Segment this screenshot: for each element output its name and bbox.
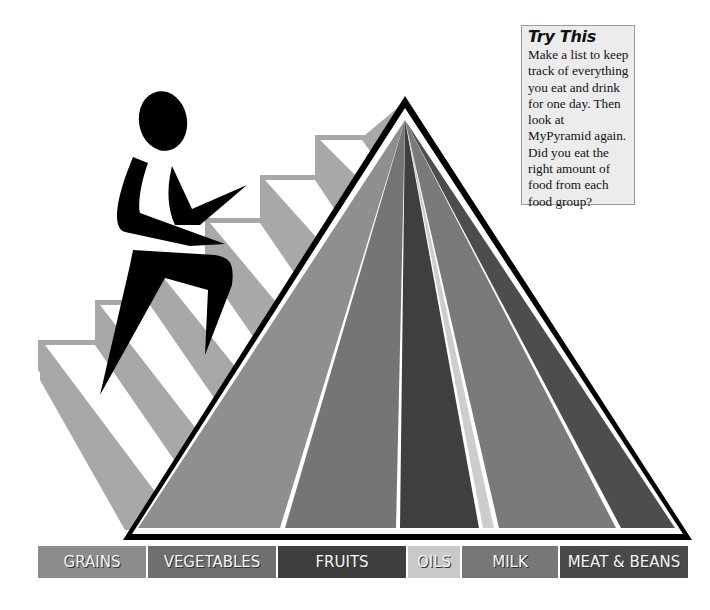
label-grains: GRAINS bbox=[38, 546, 146, 578]
food-group-labels: GRAINS VEGETABLES FRUITS OILS MILK MEAT … bbox=[38, 546, 690, 578]
label-fruits: FRUITS bbox=[278, 546, 406, 578]
try-this-body: Make a list to keep track of everything … bbox=[528, 47, 629, 210]
try-this-box: Try This Make a list to keep track of ev… bbox=[521, 25, 635, 205]
label-oils: OILS bbox=[408, 546, 460, 578]
label-vegetables: VEGETABLES bbox=[148, 546, 276, 578]
label-meat-beans: MEAT & BEANS bbox=[560, 546, 688, 578]
label-milk: MILK bbox=[462, 546, 558, 578]
try-this-title: Try This bbox=[528, 28, 629, 46]
